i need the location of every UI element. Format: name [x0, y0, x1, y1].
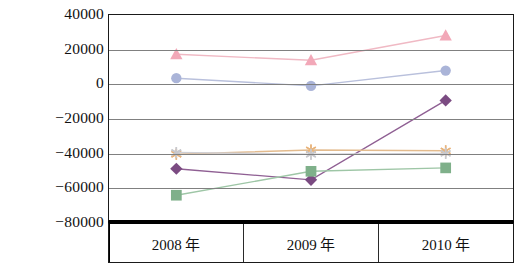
- series-triangle-pink-marker-3: [439, 29, 451, 40]
- x-axis-category-1: 2008 年: [109, 224, 244, 262]
- gridline: [109, 50, 513, 51]
- y-axis-tick-label: 20000: [4, 41, 104, 57]
- x-axis-category-band: 2008 年2009 年2010 年: [108, 222, 514, 263]
- series-diamond-purple-marker-1: [170, 163, 182, 175]
- series-triangle-pink: [170, 29, 452, 65]
- y-axis-tick-label: −60000: [4, 179, 104, 195]
- series-circle-blue-marker-1: [171, 73, 181, 83]
- y-axis-tick-label: −80000: [4, 214, 104, 230]
- x-axis-category-2: 2009 年: [244, 224, 379, 262]
- plot-area: [108, 14, 514, 222]
- y-axis: 40000200000−20000−40000−60000−80000: [0, 0, 104, 265]
- series-square-green-marker-3: [440, 163, 451, 174]
- series-circle-blue: [171, 65, 451, 91]
- y-axis-tick-label: −20000: [4, 110, 104, 126]
- line-chart: 40000200000−20000−40000−60000−80000 2008…: [0, 0, 522, 265]
- series-circle-blue-marker-2: [306, 81, 316, 91]
- gridline: [109, 154, 513, 155]
- series-diamond-purple-marker-3: [439, 94, 451, 106]
- gridline: [109, 119, 513, 120]
- series-square-green-marker-1: [171, 190, 182, 201]
- gridline: [109, 188, 513, 189]
- y-axis-tick-label: −40000: [4, 145, 104, 161]
- series-circle-blue-marker-3: [440, 65, 450, 75]
- y-axis-tick-label: 0: [4, 75, 104, 91]
- x-axis-category-3: 2010 年: [379, 224, 513, 262]
- gridline: [109, 84, 513, 85]
- series-square-green-marker-2: [306, 166, 317, 177]
- y-axis-tick-label: 40000: [4, 6, 104, 22]
